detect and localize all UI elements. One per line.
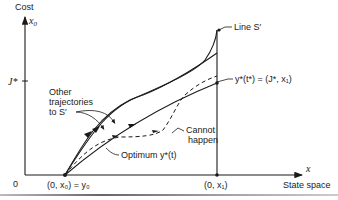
- terminal-label: y*(t*) = (J*, x₁): [235, 74, 292, 84]
- origin-label: 0: [13, 179, 18, 189]
- bottom-rule: [0, 194, 338, 196]
- cannot-happen-label-1: Cannot: [186, 125, 216, 135]
- y-axis-symbol: x0: [28, 15, 37, 28]
- y-axis-cost-label: Cost: [15, 2, 34, 12]
- other-trajectories-label-3: to S′: [49, 107, 67, 117]
- j-star-label: J*: [8, 76, 17, 87]
- leader-line-optimum: [106, 148, 119, 155]
- optimum-label: Optimum y*(t): [121, 150, 177, 160]
- leader-line-terminal: [217, 79, 233, 82]
- other-trajectories-label-2: trajectories: [49, 97, 94, 107]
- leader-line-s: [219, 27, 232, 30]
- leader-line-cannot: [172, 128, 184, 133]
- start-point-label: (0, x₀) = y₀: [47, 180, 90, 190]
- end-point: [215, 173, 219, 177]
- optimal-trajectory-diagram: Cost x0 J* Other trajectories to S′ Line…: [0, 0, 338, 200]
- x-axis-symbol: x: [305, 163, 311, 174]
- end-point-label: (0, x₁): [204, 180, 228, 190]
- line-s-label: Line S′: [234, 22, 262, 32]
- other-trajectories-label-1: Other: [49, 87, 72, 97]
- start-point: [63, 173, 67, 177]
- cannot-happen-label-2: happen: [188, 135, 218, 145]
- x-axis-state-space-label: State space: [283, 180, 331, 190]
